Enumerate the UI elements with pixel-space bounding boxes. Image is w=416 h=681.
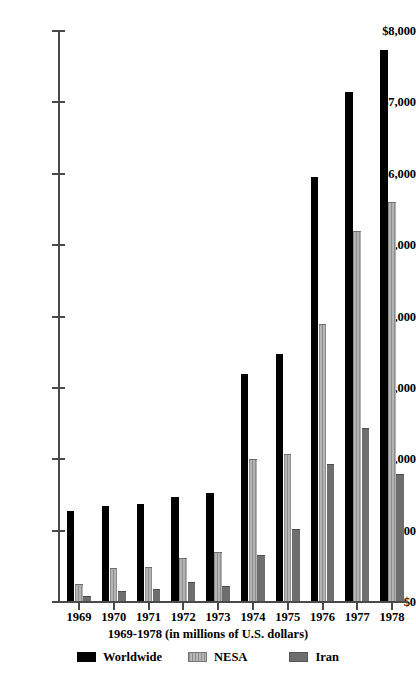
bar-worldwide-1971	[137, 504, 145, 602]
bar-iran-1973	[222, 586, 230, 602]
bar-nesa-1970	[110, 568, 118, 602]
x-axis-tick	[252, 602, 254, 610]
legend-swatch-nesa-icon	[188, 652, 207, 662]
x-axis-tick	[217, 602, 219, 610]
bar-nesa-1976	[319, 324, 327, 602]
bar-group	[241, 31, 265, 602]
bar-nesa-1973	[214, 552, 222, 602]
bar-nesa-1978	[388, 202, 396, 602]
legend-swatch-worldwide-icon	[77, 652, 96, 662]
legend-label-iran: Iran	[315, 651, 339, 664]
bar-iran-1975	[292, 529, 300, 602]
bar-group	[206, 31, 230, 602]
bar-worldwide-1978	[380, 50, 388, 602]
x-axis-tick	[78, 602, 80, 610]
bar-worldwide-1977	[345, 92, 353, 602]
x-axis-tick	[182, 602, 184, 610]
bar-nesa-1972	[179, 558, 187, 602]
legend-label-worldwide: Worldwide	[103, 651, 162, 664]
bar-iran-1974	[257, 555, 265, 602]
bar-nesa-1975	[284, 454, 292, 602]
bar-worldwide-1972	[171, 497, 179, 602]
bar-iran-1978	[396, 474, 404, 602]
x-axis-tick	[356, 602, 358, 610]
bar-worldwide-1975	[276, 354, 284, 602]
bar-chart: $8,000$7,000$6,000$5,000$4,000$3,000$2,0…	[0, 0, 416, 681]
x-axis-tick	[148, 602, 150, 610]
bar-nesa-1977	[353, 231, 361, 602]
x-axis-tick	[287, 602, 289, 610]
bar-group	[380, 31, 404, 602]
bar-worldwide-1970	[102, 506, 110, 602]
bar-iran-1976	[327, 464, 335, 602]
x-axis-tick	[391, 602, 393, 610]
legend-item-worldwide: Worldwide	[77, 651, 162, 664]
bar-nesa-1969	[75, 584, 83, 602]
bar-nesa-1974	[249, 459, 257, 602]
legend-item-iran: Iran	[289, 651, 339, 664]
bar-group	[171, 31, 195, 602]
bar-iran-1972	[188, 582, 196, 602]
bar-nesa-1971	[145, 567, 153, 602]
bar-group	[345, 31, 369, 602]
x-axis-tick-label-1978: 1978	[370, 611, 414, 624]
bar-group	[276, 31, 300, 602]
legend-label-nesa: NESA	[214, 651, 247, 664]
x-axis-title: 1969-1978 (in millions of U.S. dollars)	[0, 628, 416, 641]
bar-worldwide-1973	[206, 493, 214, 602]
bar-worldwide-1974	[241, 374, 249, 602]
x-axis-tick	[322, 602, 324, 610]
legend-swatch-iran-icon	[289, 652, 308, 662]
bar-iran-1977	[362, 428, 370, 602]
bar-group	[137, 31, 161, 602]
bar-group	[102, 31, 126, 602]
bar-worldwide-1976	[311, 177, 319, 602]
bar-group	[67, 31, 91, 602]
plot-area	[60, 31, 408, 602]
legend-item-nesa: NESA	[188, 651, 247, 664]
bar-group	[311, 31, 335, 602]
chart-legend: Worldwide NESA Iran	[0, 651, 416, 664]
x-axis-tick	[113, 602, 115, 610]
bar-worldwide-1969	[67, 511, 75, 602]
